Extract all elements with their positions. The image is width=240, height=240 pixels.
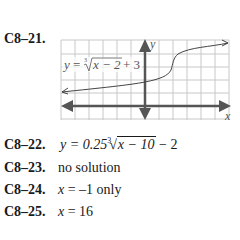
answer-prefix: y = 0.25 (60, 137, 107, 152)
answer-c8-24: x = –1 only (58, 182, 122, 198)
answer-variable: x (58, 204, 64, 219)
answer-c8-25: x = 16 (58, 204, 93, 220)
radicand: x − 10 (117, 136, 156, 152)
svg-text:=: = (73, 57, 80, 72)
root-index: 3 (107, 136, 111, 145)
problem-label-c8-22: C8–22. (4, 137, 46, 153)
problem-label-c8-25: C8–25. (4, 204, 46, 220)
answer-suffix: − 2 (159, 137, 177, 152)
answer-c8-22: y = 0.253√x − 10 − 2 (60, 137, 177, 155)
svg-text:y: y (62, 57, 70, 72)
problem-label-c8-23: C8–23. (4, 160, 46, 176)
y-axis-label: y (149, 37, 156, 51)
svg-text:3: 3 (84, 57, 87, 63)
answer-value: = –1 only (68, 182, 122, 197)
answer-value: = 16 (68, 204, 93, 219)
svg-text:x − 2: x − 2 (92, 57, 121, 72)
answer-variable: x (58, 182, 64, 197)
equation-label: y = 3 x − 2 + 3 (62, 57, 142, 72)
x-axis-label: x (224, 109, 231, 123)
cube-root: 3√x − 10 (107, 137, 155, 155)
svg-text:+ 3: + 3 (123, 57, 140, 72)
problem-label-c8-24: C8–24. (4, 182, 46, 198)
answer-c8-23: no solution (58, 160, 121, 176)
